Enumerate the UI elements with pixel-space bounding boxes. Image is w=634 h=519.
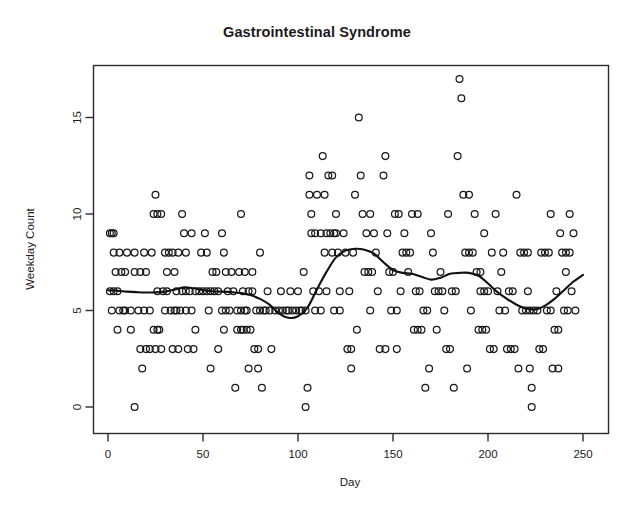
data-point: [148, 249, 155, 256]
data-point: [528, 404, 535, 411]
x-tick-label: 100: [288, 448, 307, 460]
data-point: [441, 307, 448, 314]
data-point: [397, 288, 404, 295]
x-tick-label: 0: [105, 448, 111, 460]
data-point: [481, 230, 488, 237]
data-point: [183, 249, 190, 256]
data-point: [340, 230, 347, 237]
data-point: [492, 211, 499, 218]
data-point: [319, 153, 326, 160]
data-point: [139, 365, 146, 372]
data-point: [367, 211, 374, 218]
data-point: [553, 288, 560, 295]
data-point: [401, 230, 408, 237]
data-point: [557, 230, 564, 237]
data-point: [219, 230, 226, 237]
x-tick-label: 50: [197, 448, 210, 460]
data-point: [152, 191, 159, 198]
data-point: [437, 269, 444, 276]
data-point: [393, 346, 400, 353]
x-tick-label: 200: [478, 448, 497, 460]
data-point: [528, 384, 535, 391]
data-point: [304, 384, 311, 391]
data-point: [352, 191, 359, 198]
data-point: [257, 249, 264, 256]
data-point: [131, 404, 138, 411]
data-point: [333, 211, 340, 218]
data-point: [384, 230, 391, 237]
data-point: [314, 191, 321, 198]
data-point: [526, 365, 533, 372]
data-point: [371, 230, 378, 237]
data-point: [141, 249, 148, 256]
data-point: [568, 288, 575, 295]
data-point: [422, 384, 429, 391]
y-tick-label: 15: [71, 111, 83, 124]
data-point: [346, 288, 353, 295]
data-point: [458, 95, 465, 102]
data-point: [192, 326, 199, 333]
data-point: [278, 288, 285, 295]
y-tick-label: 10: [71, 208, 83, 221]
data-point: [131, 249, 138, 256]
data-points: [107, 76, 579, 411]
data-point: [367, 307, 374, 314]
data-point: [430, 249, 437, 256]
data-point: [306, 191, 313, 198]
data-point: [515, 365, 522, 372]
x-tick-label: 150: [383, 448, 402, 460]
data-point: [570, 230, 577, 237]
data-point: [202, 230, 209, 237]
x-tick-label: 250: [573, 448, 592, 460]
data-point: [268, 346, 275, 353]
data-point: [374, 288, 381, 295]
data-point: [471, 211, 478, 218]
data-point: [245, 365, 252, 372]
data-point: [498, 269, 505, 276]
data-point: [232, 384, 239, 391]
data-point: [382, 153, 389, 160]
data-point: [302, 404, 309, 411]
data-point: [321, 191, 328, 198]
data-point: [355, 114, 362, 121]
data-point: [456, 76, 463, 83]
data-point: [513, 191, 520, 198]
data-point: [572, 307, 579, 314]
data-point: [433, 326, 440, 333]
x-axis-title: Day: [340, 476, 361, 488]
data-point: [363, 230, 370, 237]
y-axis-ticks: 051015: [71, 111, 94, 410]
data-point: [124, 249, 131, 256]
data-point: [488, 249, 495, 256]
data-point: [321, 249, 328, 256]
data-point: [428, 230, 435, 237]
data-point: [114, 326, 121, 333]
data-point: [525, 288, 532, 295]
scatter-plot: 051015 050100150200250 Day Weekday Count: [0, 0, 634, 519]
chart-figure: Gastrointestinal Syndrome 051015 0501001…: [0, 0, 634, 519]
y-tick-label: 5: [71, 307, 83, 313]
data-point: [464, 365, 471, 372]
data-point: [259, 384, 266, 391]
x-axis-ticks: 050100150200250: [105, 434, 593, 460]
data-point: [179, 211, 186, 218]
data-point: [295, 288, 302, 295]
data-point: [249, 269, 256, 276]
data-point: [205, 307, 212, 314]
data-point: [238, 211, 245, 218]
data-point: [188, 230, 195, 237]
data-point: [357, 172, 364, 179]
data-point: [264, 288, 271, 295]
y-tick-label: 0: [71, 404, 83, 410]
data-point: [207, 365, 214, 372]
data-point: [445, 211, 452, 218]
data-point: [108, 307, 115, 314]
data-point: [308, 211, 315, 218]
data-point: [323, 288, 330, 295]
data-point: [547, 211, 554, 218]
data-point: [336, 288, 343, 295]
data-point: [255, 365, 262, 372]
data-point: [127, 326, 134, 333]
data-point: [215, 346, 222, 353]
data-point: [426, 365, 433, 372]
